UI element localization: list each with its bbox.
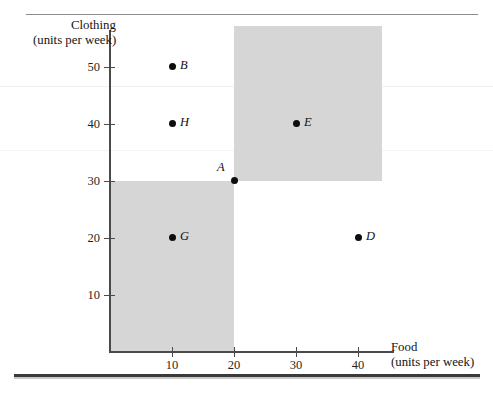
y-tick-40	[104, 124, 115, 125]
x-tick-label-30: 30	[281, 358, 311, 373]
y-tick-50	[104, 67, 115, 68]
x-axis-title-line2: (units per week)	[391, 355, 474, 370]
data-point-label-A: A	[217, 160, 225, 175]
x-tick-label-40: 40	[343, 358, 373, 373]
y-axis-title-line2: (units per week)	[33, 33, 116, 48]
x-axis-title-line1: Food	[391, 340, 417, 355]
data-point-H	[169, 120, 176, 127]
y-tick-label-50: 50	[70, 60, 100, 75]
x-tick-label-20: 20	[219, 358, 249, 373]
data-point-label-H: H	[180, 115, 189, 130]
x-tick-10	[172, 347, 173, 357]
data-point-label-B: B	[180, 58, 188, 73]
y-tick-10	[104, 295, 115, 296]
data-point-A	[231, 177, 238, 184]
y-axis-line	[109, 30, 111, 353]
y-tick-label-30: 30	[70, 174, 100, 189]
y-tick-20	[104, 238, 115, 239]
data-point-D	[355, 234, 362, 241]
y-tick-30	[104, 181, 115, 182]
scatter-plot: 50 40 30 20 10 10 20 30 40 Clothing (uni…	[0, 0, 493, 397]
y-tick-label-40: 40	[70, 117, 100, 132]
x-tick-40	[358, 347, 359, 357]
x-tick-label-10: 10	[157, 358, 187, 373]
data-point-label-G: G	[180, 229, 189, 244]
data-point-E	[293, 120, 300, 127]
x-tick-30	[296, 347, 297, 357]
x-axis-line	[110, 351, 394, 353]
data-point-label-D: D	[366, 229, 375, 244]
page-bottom-rule-shadow	[14, 377, 480, 379]
y-tick-label-10: 10	[70, 288, 100, 303]
y-axis-title-line1: Clothing	[71, 18, 116, 33]
shaded-region-preferred-to-A	[234, 26, 382, 181]
x-tick-20	[234, 347, 235, 357]
y-tick-label-20: 20	[70, 231, 100, 246]
data-point-G	[169, 234, 176, 241]
shaded-region-less-preferred-than-A	[111, 181, 234, 352]
data-point-label-E: E	[304, 115, 312, 130]
data-point-B	[169, 63, 176, 70]
